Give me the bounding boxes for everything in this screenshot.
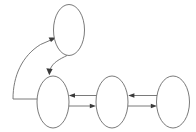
node-bottom-left-shape[interactable]: [37, 76, 69, 128]
diagram-canvas: [0, 0, 196, 132]
diagram-svg: [0, 0, 196, 132]
edge-middle-to-left-arrowhead: [69, 93, 75, 98]
edge-left-to-middle: [69, 104, 96, 109]
edge-right-to-middle: [128, 93, 157, 98]
edge-middle-to-right: [128, 104, 157, 109]
edge-top-to-bottom-left-arrowhead: [46, 68, 52, 75]
node-bottom-middle-shape[interactable]: [96, 76, 128, 128]
node-bottom-right-shape[interactable]: [157, 76, 190, 128]
node-bottom-middle[interactable]: [96, 76, 128, 128]
edge-right-to-middle-arrowhead: [128, 93, 134, 98]
node-bottom-left[interactable]: [37, 76, 69, 128]
edge-middle-to-right-arrowhead: [151, 104, 157, 109]
node-top[interactable]: [54, 5, 85, 56]
edge-top-to-bottom-left-path: [50, 56, 67, 70]
node-bottom-right[interactable]: [157, 76, 190, 128]
node-top-shape[interactable]: [54, 5, 85, 56]
edge-left-to-middle-arrowhead: [90, 104, 96, 109]
edge-top-to-bottom-left: [46, 56, 67, 76]
edge-middle-to-left: [69, 93, 96, 98]
